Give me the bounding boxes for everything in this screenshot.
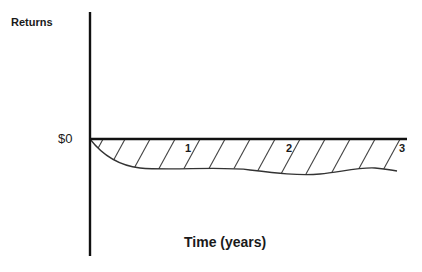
x-tick-2: 2 [286,142,292,154]
returns-curve [90,139,397,175]
x-tick-3: 3 [399,142,405,154]
x-tick-1: 1 [185,142,191,154]
returns-diagram [0,0,422,272]
x-axis-label: Time (years) [184,234,266,250]
